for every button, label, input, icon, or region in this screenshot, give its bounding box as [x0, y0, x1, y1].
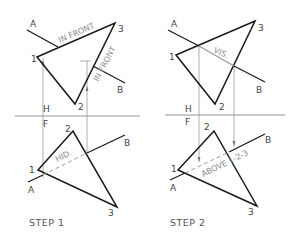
step1-caption: STEP 1 — [29, 217, 65, 228]
step1-top-label-a: A — [30, 19, 37, 29]
step1-top-label-3: 3 — [118, 24, 124, 34]
step2-caption: STEP 2 — [170, 217, 206, 228]
step1-panel: A B 1 2 3 H IN FRONT IN FRONT A B 1 2 3 … — [15, 19, 140, 228]
step2-top-label-1: 1 — [169, 52, 175, 62]
step1-top-label-2: 2 — [78, 102, 84, 112]
step2-note-above: ABOVE 1-2-3 — [200, 148, 250, 178]
step2-panel: A B 1 2 3 H VIS. A B 1 2 3 F ABOVE 1-2-3… — [165, 19, 285, 228]
step2-label-f: F — [185, 117, 190, 127]
step2-top-label-2: 2 — [219, 102, 225, 112]
step2-front-label-1: 1 — [171, 164, 177, 174]
step1-front-label-3: 3 — [108, 208, 114, 218]
step1-front-label-1: 1 — [29, 165, 35, 175]
step2-front-label-2: 2 — [204, 122, 210, 132]
step1-top-label-1: 1 — [31, 54, 37, 64]
step1-front-triangle — [38, 131, 117, 207]
step2-front-label-b: B — [265, 135, 271, 145]
descriptive-geometry-figure: A B 1 2 3 H IN FRONT IN FRONT A B 1 2 3 … — [0, 0, 296, 236]
step2-front-label-3: 3 — [248, 207, 254, 217]
step1-front-line-ab-b — [87, 135, 125, 153]
step2-front-label-a: A — [170, 183, 177, 193]
step1-front-line-ab-a — [28, 175, 43, 182]
step2-top-label-a: A — [171, 19, 178, 29]
step1-front-label-b: B — [124, 138, 130, 148]
step1-label-h: H — [43, 104, 50, 114]
step1-top-label-b: B — [117, 85, 123, 95]
step1-arrow-icon-2 — [86, 86, 89, 91]
step2-top-line-ab-b — [234, 66, 265, 82]
step2-top-triangle — [176, 21, 255, 104]
step1-top-line-ab-a — [27, 30, 58, 47]
step2-arrow-icon-1 — [198, 157, 201, 162]
step2-top-label-3: 3 — [258, 23, 264, 33]
step1-label-f: F — [43, 119, 48, 129]
step2-top-label-b: B — [256, 85, 262, 95]
step1-front-label-a: A — [28, 185, 35, 195]
step2-front-line-ab-a — [170, 173, 185, 180]
step1-note-in-front-1: IN FRONT — [57, 21, 96, 45]
step1-front-label-2: 2 — [65, 124, 71, 134]
step2-arrow-icon-2 — [233, 141, 236, 146]
step2-label-h: H — [185, 104, 192, 114]
step2-top-line-ab-a — [168, 30, 199, 46]
